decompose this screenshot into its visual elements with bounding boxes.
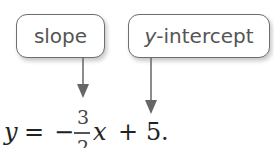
equation-terminator: .	[161, 120, 169, 144]
slope-callout: slope	[16, 14, 105, 58]
y-intercept-callout: y-intercept	[128, 14, 270, 58]
y-intercept-label: -intercept	[156, 24, 253, 48]
slope-label: slope	[34, 24, 87, 48]
equation-equals: =	[24, 120, 44, 144]
equation-constant: 5	[146, 120, 161, 144]
y-intercept-variable: y	[144, 24, 156, 48]
equation-sign: −	[54, 120, 74, 144]
equation-lhs: y	[4, 120, 18, 144]
slope-arrow-icon	[76, 58, 90, 100]
y-intercept-arrow-icon	[144, 58, 158, 116]
fraction-bar	[74, 132, 90, 134]
fraction-numerator: 3	[77, 106, 89, 128]
equation-variable: x	[93, 120, 107, 144]
fraction-denominator: 2	[77, 136, 89, 148]
equation-plus: +	[118, 120, 138, 144]
